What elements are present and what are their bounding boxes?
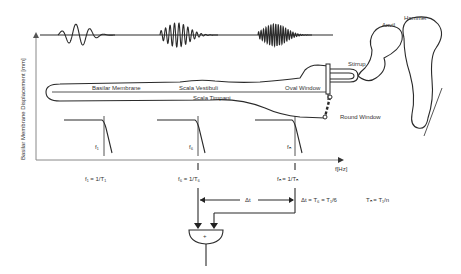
- signal-path-fn: [210, 188, 295, 229]
- signal-path-f6: [194, 188, 202, 229]
- scala-vestibuli-label: Scala Vestibuli: [179, 85, 218, 91]
- equation-fn: fₙ = 1/Tₙ: [277, 176, 299, 182]
- y-axis-label: Basilar Membrane Displacement [mm]: [20, 58, 26, 160]
- eardrum-line: [424, 88, 442, 136]
- equation-f1: f₁ = 1/T₁: [85, 176, 106, 182]
- filter-n-response: [255, 116, 302, 156]
- stirrup-bone: [330, 69, 358, 82]
- oval-window-plate: [326, 64, 330, 94]
- equation-f6: f₆ = 1/T₆: [178, 176, 201, 182]
- filter-1-label: f₁: [95, 144, 99, 150]
- high-frequency-wavelet: [258, 24, 312, 46]
- y-axis: [33, 32, 39, 160]
- x-axis-label: f[Hz]: [335, 166, 348, 172]
- filter-1-response: [64, 116, 112, 156]
- cochlea-outline: [46, 65, 328, 118]
- mid-frequency-wavelet: [160, 23, 218, 47]
- period-equation: Tₙ = T₁/n: [366, 197, 389, 203]
- round-window-label: Round Window: [340, 114, 381, 120]
- cochlea-filterbank-diagram: Basilar Membrane Displacement [mm] f[Hz]…: [0, 0, 461, 274]
- oval-window-label: Oval Window: [285, 85, 321, 91]
- basilar-membrane-label: Basilar Membrane: [92, 85, 141, 91]
- hammer-bone: [403, 17, 442, 128]
- filter-n-label: fₙ: [287, 144, 292, 150]
- hammer-label: Hammer: [404, 15, 427, 21]
- delay-equation: Δt = T₆ = T₁/6: [301, 197, 338, 203]
- stirrup-label: Stirrup: [348, 61, 366, 67]
- anvil-label: Anvil: [382, 22, 395, 28]
- filter-6-response: [157, 116, 205, 156]
- anvil-bone: [358, 26, 402, 81]
- delay-label: Δt: [245, 197, 251, 203]
- scala-timpani-label: Scala Timpani: [193, 95, 231, 101]
- filter-6-label: f₆: [189, 144, 194, 150]
- x-axis: [36, 157, 344, 163]
- summer-symbol: +: [203, 233, 207, 239]
